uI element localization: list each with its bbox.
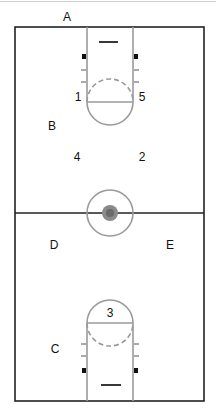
top-block-right [134, 54, 138, 59]
top-free-throw-circle-solid [87, 102, 133, 125]
bottom-free-throw-circle-dashed [87, 323, 133, 346]
player-3: 3 [107, 306, 114, 320]
label-c: C [51, 342, 60, 356]
label-b: B [48, 119, 56, 133]
top-free-throw-circle-dashed [87, 79, 133, 102]
player-5: 5 [139, 90, 146, 104]
player-4: 4 [74, 150, 81, 164]
player-1: 1 [75, 90, 82, 104]
label-e: E [166, 238, 174, 252]
label-d: D [50, 238, 59, 252]
bottom-block-left [82, 368, 86, 373]
label-a: A [63, 10, 71, 24]
basketball-court-diagram: A B C D E 1 2 3 4 5 [0, 0, 216, 416]
player-2: 2 [139, 150, 146, 164]
top-key [81, 27, 139, 125]
top-block-left [82, 54, 86, 59]
bottom-block-right [134, 368, 138, 373]
